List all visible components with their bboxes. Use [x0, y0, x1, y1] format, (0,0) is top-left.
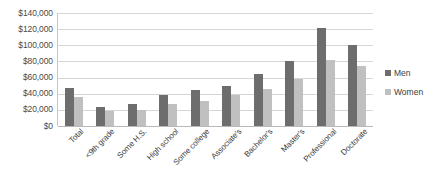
bar-women-2[interactable] — [137, 110, 146, 126]
bar-men-2[interactable] — [128, 104, 137, 126]
legend-label: Women — [394, 87, 423, 97]
bar-group — [121, 13, 153, 126]
x-axis-tick-label: Associate's — [209, 127, 243, 161]
bar-women-4[interactable] — [200, 101, 209, 126]
y-axis-tick-label: $80,000 — [23, 57, 53, 66]
bar-group — [216, 13, 248, 126]
y-axis-tick-label: $60,000 — [23, 73, 53, 82]
bar-group — [279, 13, 311, 126]
chart-legend: MenWomen — [385, 68, 442, 106]
x-axis-tick-label: Some H.S. — [115, 127, 148, 160]
bar-men-4[interactable] — [191, 90, 200, 126]
bar-women-0[interactable] — [74, 97, 83, 126]
x-axis-tick-label: Master's — [279, 127, 306, 154]
y-axis-tick-label: $0 — [44, 122, 53, 131]
bar-women-1[interactable] — [105, 111, 114, 126]
legend-item-men[interactable]: Men — [385, 68, 442, 78]
bar-men-7[interactable] — [285, 61, 294, 126]
bar-women-5[interactable] — [231, 95, 240, 126]
y-axis-tick-label: $100,000 — [18, 41, 53, 50]
bar-group — [184, 13, 216, 126]
y-axis-tick-label: $140,000 — [18, 9, 53, 18]
bar-men-3[interactable] — [159, 95, 168, 126]
x-axis-tick-label: Doctorate — [339, 127, 369, 157]
bar-men-1[interactable] — [96, 107, 105, 126]
bar-women-3[interactable] — [168, 104, 177, 126]
x-axis-tick-label: Bachelor's — [243, 127, 275, 159]
bar-group — [90, 13, 122, 126]
bar-men-0[interactable] — [65, 88, 74, 126]
legend-swatch-icon — [385, 89, 391, 95]
bar-group — [58, 13, 90, 126]
bars-layer — [58, 13, 373, 126]
bar-women-9[interactable] — [357, 66, 366, 126]
bar-men-5[interactable] — [222, 86, 231, 126]
bar-chart: $140,000$120,000$100,000$80,000$60,000$4… — [0, 0, 442, 187]
y-axis: $140,000$120,000$100,000$80,000$60,000$4… — [0, 0, 56, 187]
y-axis-tick-label: $40,000 — [23, 89, 53, 98]
bar-group — [342, 13, 374, 126]
x-axis-tick-label: Total — [67, 127, 85, 145]
legend-label: Men — [394, 68, 411, 78]
bar-men-8[interactable] — [317, 28, 326, 126]
plot-area — [57, 13, 373, 126]
y-axis-tick-label: $20,000 — [23, 105, 53, 114]
bar-women-8[interactable] — [326, 60, 335, 126]
legend-swatch-icon — [385, 70, 391, 76]
bar-group — [310, 13, 342, 126]
x-axis-tick-label: Professional — [301, 127, 338, 164]
x-axis-tick-label: <9th grade — [84, 127, 117, 160]
legend-item-women[interactable]: Women — [385, 87, 442, 97]
bar-group — [153, 13, 185, 126]
bar-women-7[interactable] — [294, 79, 303, 126]
bar-group — [247, 13, 279, 126]
bar-men-6[interactable] — [254, 74, 263, 126]
bar-women-6[interactable] — [263, 89, 272, 126]
x-axis: Total<9th gradeSome H.S.High schoolSome … — [57, 127, 373, 187]
y-axis-tick-label: $120,000 — [18, 25, 53, 34]
bar-men-9[interactable] — [348, 45, 357, 126]
